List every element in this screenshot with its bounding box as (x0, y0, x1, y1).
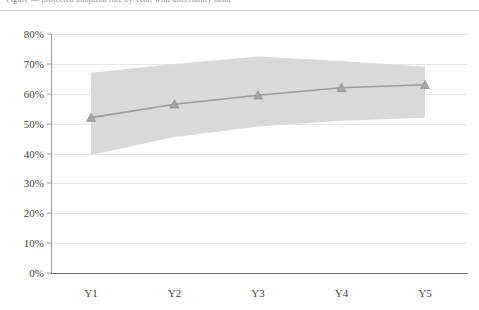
y-tick-label: 0% (29, 267, 44, 279)
x-tick-label-y2: Y2 (168, 287, 181, 299)
x-tick-label-y1: Y1 (84, 287, 97, 299)
y-tick-label: 20% (24, 207, 44, 219)
y-tick-label: 50% (24, 118, 44, 130)
chart-container: 0%10%20%30%40%50%60%70%80% Y1Y2Y3Y4Y5 (0, 11, 479, 310)
y-tick-label: 80% (24, 28, 44, 40)
uncertainty-band (91, 56, 425, 155)
y-axis-line (51, 34, 52, 274)
chart-svg-layer (51, 34, 467, 273)
y-tick-label: 70% (24, 58, 44, 70)
plot-area: 0%10%20%30%40%50%60%70%80% (51, 34, 467, 273)
y-tick-label: 40% (24, 148, 44, 160)
y-tick-label: 30% (24, 177, 44, 189)
x-tick-label-y3: Y3 (251, 287, 264, 299)
x-axis-line (51, 273, 468, 274)
y-tick-label: 10% (24, 237, 44, 249)
clipped-header-text: Figure — projected adoption rate by year… (6, 0, 231, 4)
y-tick-label: 60% (24, 88, 44, 100)
x-tick-label-y5: Y5 (418, 287, 431, 299)
x-tick-label-y4: Y4 (335, 287, 348, 299)
